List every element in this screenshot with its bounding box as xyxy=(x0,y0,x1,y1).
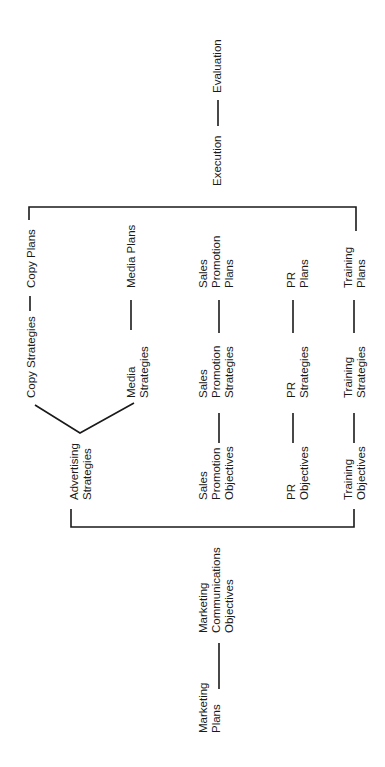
node-training-strategies: Training Strategies xyxy=(342,346,368,398)
node-advertising-strategies: Advertising Strategies xyxy=(68,443,94,500)
node-line: PR xyxy=(285,346,298,398)
node-line: Marketing xyxy=(197,547,210,633)
node-line: Sales xyxy=(197,346,210,398)
node-line: Training xyxy=(342,247,355,288)
node-line: Promotion xyxy=(210,446,223,500)
node-line: Media xyxy=(125,346,138,398)
node-line: Sales xyxy=(197,446,210,500)
node-sales-promotion-objectives: Sales Promotion Objectives xyxy=(197,446,236,500)
node-evaluation: Evaluation xyxy=(211,39,224,93)
node-media-plans: Media Plans xyxy=(125,225,138,288)
node-marketing-communications-objectives: Marketing Communications Objectives xyxy=(197,547,236,633)
node-training-plans: Training Plans xyxy=(342,247,368,288)
node-line: PR xyxy=(285,446,298,500)
node-line: Execution xyxy=(211,135,224,186)
node-copy-plans: Copy Plans xyxy=(25,229,38,288)
node-line: Objectives xyxy=(298,446,311,500)
node-line: Marketing xyxy=(197,683,210,734)
node-sales-promotion-strategies: Sales Promotion Strategies xyxy=(197,346,236,398)
node-line: Communications xyxy=(210,547,223,633)
node-media-strategies: Media Strategies xyxy=(125,346,151,398)
node-line: Strategies xyxy=(223,346,236,398)
node-pr-plans: PR Plans xyxy=(285,259,311,288)
node-line: Sales xyxy=(197,236,210,288)
node-line: Promotion xyxy=(210,346,223,398)
node-line: Plans xyxy=(355,247,368,288)
node-pr-objectives: PR Objectives xyxy=(285,446,311,500)
node-line: Plans xyxy=(298,259,311,288)
node-marketing-plans: Marketing Plans xyxy=(197,683,223,734)
node-line: Plans xyxy=(210,683,223,734)
node-line: Strategies xyxy=(355,346,368,398)
node-line: Training xyxy=(342,346,355,398)
node-line: Copy Strategies xyxy=(25,316,38,398)
node-line: Plans xyxy=(223,236,236,288)
node-line: Objectives xyxy=(355,446,368,500)
node-line: Advertising xyxy=(68,443,81,500)
node-line: Evaluation xyxy=(211,39,224,93)
node-line: Media Plans xyxy=(125,225,138,288)
node-line: Objectives xyxy=(223,446,236,500)
node-line: Training xyxy=(342,446,355,500)
node-copy-strategies: Copy Strategies xyxy=(25,316,38,398)
node-pr-strategies: PR Strategies xyxy=(285,346,311,398)
node-line: PR xyxy=(285,259,298,288)
node-line: Copy Plans xyxy=(25,229,38,288)
node-line: Strategies xyxy=(298,346,311,398)
node-line: Strategies xyxy=(81,443,94,500)
node-line: Strategies xyxy=(138,346,151,398)
node-execution: Execution xyxy=(211,135,224,186)
node-sales-promotion-plans: Sales Promotion Plans xyxy=(197,236,236,288)
node-line: Objectives xyxy=(223,547,236,633)
node-training-objectives: Training Objectives xyxy=(342,446,368,500)
connector-lines xyxy=(0,0,385,767)
node-line: Promotion xyxy=(210,236,223,288)
